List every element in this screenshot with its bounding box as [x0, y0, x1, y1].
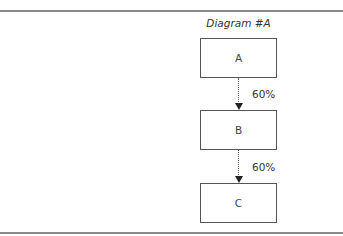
node-a-label: A [235, 52, 242, 64]
node-b-label: B [235, 124, 242, 136]
diagram-title: Diagram #A [200, 17, 277, 29]
node-c: C [200, 183, 277, 223]
edge-b-c-label: 60% [252, 161, 275, 173]
edge-a-b-label: 60% [252, 88, 275, 100]
arrowhead-icon [235, 103, 243, 110]
bottom-divider [0, 232, 343, 234]
edge-b-c-arrow [237, 150, 240, 183]
dotted-line [238, 78, 239, 104]
node-c-label: C [235, 197, 242, 209]
dotted-line [238, 150, 239, 177]
node-b: B [200, 110, 277, 150]
edge-a-b-arrow [237, 78, 240, 110]
arrowhead-icon [235, 176, 243, 183]
node-a: A [200, 38, 277, 78]
top-divider [0, 10, 343, 12]
